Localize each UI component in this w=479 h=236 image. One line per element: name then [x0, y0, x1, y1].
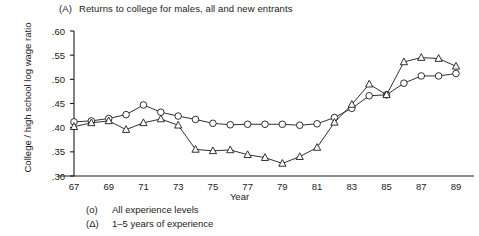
legend-item-label: 1–5 years of experience	[112, 217, 213, 231]
triangle-data-point	[157, 115, 164, 122]
y-tick-label: .50	[52, 74, 65, 85]
circle-data-point	[366, 92, 373, 99]
chart-figure: (A)Returns to college for males, all and…	[0, 0, 479, 236]
y-tick-label: .60	[52, 26, 65, 37]
circle-marker-icon: (o)	[86, 203, 112, 217]
y-tick-label: .40	[52, 122, 65, 133]
circle-data-point	[244, 121, 251, 128]
triangle-data-point	[296, 153, 303, 160]
legend-item: (Δ) 1–5 years of experience	[86, 217, 213, 231]
y-tick-label: .45	[52, 98, 65, 109]
triangle-data-point	[227, 146, 234, 153]
circle-data-point	[279, 121, 286, 128]
legend-item-label: All experience levels	[112, 203, 199, 217]
triangle-data-point	[452, 62, 459, 69]
circle-data-point	[296, 122, 303, 129]
circle-data-point	[435, 73, 442, 80]
data-series-layer	[70, 54, 459, 167]
series-line	[74, 58, 456, 164]
circle-data-point	[175, 113, 182, 120]
circle-data-point	[210, 120, 217, 127]
y-axis-ticks: .60.55.50.45.40.35.30	[52, 26, 74, 182]
triangle-data-point	[418, 54, 425, 61]
chart-legend: (o) All experience levels (Δ) 1–5 years …	[86, 203, 213, 231]
circle-data-point	[140, 102, 147, 109]
triangle-marker-icon: (Δ)	[86, 217, 112, 231]
legend-item: (o) All experience levels	[86, 203, 213, 217]
circle-data-point	[192, 116, 199, 123]
circle-data-point	[314, 121, 321, 128]
series-line	[74, 74, 456, 126]
circle-data-point	[123, 111, 130, 118]
triangle-data-point	[366, 80, 373, 87]
circle-data-point	[227, 121, 234, 128]
y-tick-label: .55	[52, 50, 65, 61]
circle-data-point	[262, 121, 269, 128]
circle-data-point	[401, 80, 408, 87]
y-tick-label: .35	[52, 146, 65, 157]
x-axis-label: Year	[0, 191, 479, 202]
circle-data-point	[418, 73, 425, 80]
circle-data-point	[453, 70, 460, 77]
